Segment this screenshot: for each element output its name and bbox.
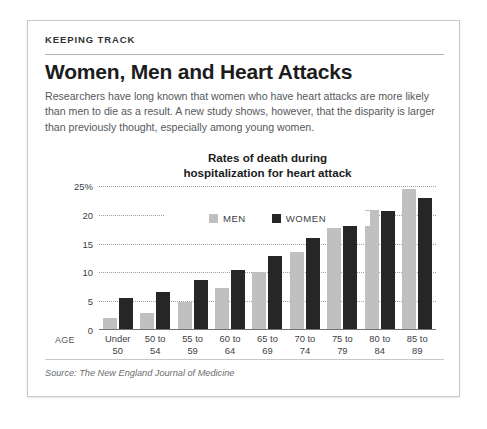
x-axis-tick-label-line: 85 to (399, 333, 436, 345)
bar-women (194, 280, 208, 330)
x-axis-tick-label-line: 84 (361, 345, 398, 357)
bar-men (215, 288, 229, 330)
x-axis-tick-label-line: 74 (286, 345, 323, 357)
kicker-label: KEEPING TRACK (45, 34, 135, 45)
x-axis-tick-label-line: 60 to (211, 333, 248, 345)
x-axis-tick-label-line: 79 (324, 345, 361, 357)
y-axis-tick-label: 20 (82, 209, 93, 220)
bar-men (365, 210, 379, 330)
bar-group (136, 186, 173, 330)
keeping-track-panel: KEEPING TRACK Women, Men and Heart Attac… (27, 20, 460, 397)
bar-group (324, 186, 361, 330)
bar-group (249, 186, 286, 330)
bar-men (178, 302, 192, 330)
x-axis-tick-label: Under50 (99, 333, 136, 356)
legend-item-men: MEN (209, 213, 246, 224)
x-axis-tick-label: 65 to69 (249, 333, 286, 356)
x-axis-tick-label-line: 69 (249, 345, 286, 357)
y-axis-tick-label: 10 (82, 267, 93, 278)
legend-item-women: WOMEN (272, 213, 326, 224)
bar-women (156, 292, 170, 330)
x-axis-tick-label-line: 54 (136, 345, 173, 357)
y-axis-tick-label: 15 (82, 238, 93, 249)
x-axis-tick-label-line: 50 (99, 345, 136, 357)
bar-men (402, 189, 416, 330)
legend-label: MEN (223, 213, 246, 224)
source-note: Source: The New England Journal of Medic… (45, 368, 234, 378)
chart-title-line-2: hospitalization for heart attack (99, 166, 436, 181)
legend-swatch-women (272, 214, 281, 223)
y-axis-tick-label: 25% (74, 181, 93, 192)
x-axis-tick-label-line: 55 to (174, 333, 211, 345)
x-axis-tick-label-line: 70 to (286, 333, 323, 345)
x-axis-tick-label-line: 50 to (136, 333, 173, 345)
bar-group (399, 186, 436, 330)
x-axis-tick-label-line: 80 to (361, 333, 398, 345)
bar-women (381, 211, 395, 330)
x-axis-tick-label: 80 to84 (361, 333, 398, 356)
age-axis-label: AGE (55, 335, 75, 345)
bar-women (268, 256, 282, 330)
x-axis-tick-label: 50 to54 (136, 333, 173, 356)
y-axis-tick-label: 5 (88, 296, 93, 307)
bar-chart: Rates of death during hospitalization fo… (45, 157, 444, 352)
plot-area: 0510152025% (99, 186, 436, 330)
bar-men (140, 313, 154, 330)
bar-women (119, 298, 133, 330)
kicker-divider (45, 54, 444, 55)
bar-men (327, 228, 341, 330)
x-axis-tick-label-line: 89 (399, 345, 436, 357)
x-axis-tick-label: 75 to79 (324, 333, 361, 356)
page-title: Women, Men and Heart Attacks (45, 60, 352, 84)
bar-group (174, 186, 211, 330)
bar-group (99, 186, 136, 330)
x-axis-tick-label-line: 65 to (249, 333, 286, 345)
x-axis-tick-label-line: Under (99, 333, 136, 345)
x-axis-tick-label: 60 to64 (211, 333, 248, 356)
x-axis-tick-label: 85 to89 (399, 333, 436, 356)
chart-title: Rates of death during hospitalization fo… (99, 151, 436, 180)
legend-swatch-men (209, 214, 218, 223)
chart-title-line-1: Rates of death during (99, 151, 436, 166)
x-axis-tick-label: 70 to74 (286, 333, 323, 356)
y-axis-tick-label: 0 (88, 325, 93, 336)
x-axis-tick-label-line: 64 (211, 345, 248, 357)
bar-group (361, 186, 398, 330)
chart-legend: MENWOMEN (99, 213, 436, 224)
bar-women (306, 238, 320, 330)
x-axis-tick-label-line: 75 to (324, 333, 361, 345)
footer-divider (45, 359, 444, 360)
legend-label: WOMEN (286, 213, 326, 224)
x-axis-baseline (99, 329, 436, 330)
deck-paragraph: Researchers have long known that women w… (45, 89, 445, 135)
bar-men (252, 272, 266, 330)
x-axis-tick-labels: Under5050 to5455 to5960 to6465 to6970 to… (99, 333, 436, 356)
bar-groups (99, 186, 436, 330)
x-axis-tick-label-line: 59 (174, 345, 211, 357)
bar-men (290, 252, 304, 330)
bar-women (343, 225, 357, 330)
bar-group (211, 186, 248, 330)
bar-group (286, 186, 323, 330)
x-axis-tick-label: 55 to59 (174, 333, 211, 356)
bar-women (231, 270, 245, 330)
